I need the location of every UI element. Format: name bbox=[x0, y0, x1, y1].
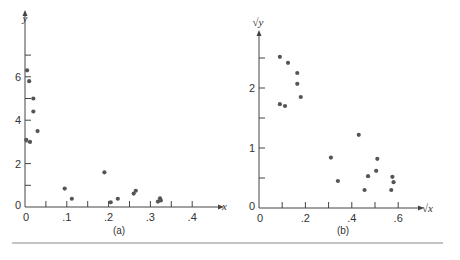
y-axis-label: y bbox=[22, 12, 28, 24]
data-point bbox=[159, 198, 163, 202]
data-point bbox=[70, 197, 74, 201]
data-point bbox=[390, 175, 394, 179]
data-point bbox=[389, 188, 393, 192]
y-tick-label: 6 bbox=[15, 71, 21, 83]
data-point bbox=[25, 68, 29, 72]
y-tick-label: 4 bbox=[15, 114, 21, 126]
data-point bbox=[28, 140, 32, 144]
y-tick-label: 1 bbox=[249, 142, 255, 154]
y-tick-label: 0 bbox=[249, 200, 255, 212]
data-point bbox=[295, 71, 299, 75]
panel-caption: (a) bbox=[113, 225, 125, 236]
data-point bbox=[299, 95, 303, 99]
data-point bbox=[31, 109, 35, 113]
x-tick-label: .4 bbox=[347, 212, 356, 224]
data-point bbox=[375, 157, 379, 161]
data-point bbox=[278, 55, 282, 59]
data-point bbox=[63, 186, 67, 190]
data-point bbox=[357, 133, 361, 137]
data-point bbox=[102, 170, 106, 174]
x-tick-label: .6 bbox=[394, 212, 403, 224]
data-point bbox=[116, 197, 120, 201]
y-tick-label: 0 bbox=[15, 199, 21, 211]
data-point bbox=[336, 179, 340, 183]
data-point bbox=[283, 104, 287, 108]
panel-caption: (b) bbox=[337, 225, 349, 236]
y-axis-label: √y bbox=[253, 16, 264, 28]
x-tick-label: .1 bbox=[62, 211, 71, 223]
data-point bbox=[362, 188, 366, 192]
data-point bbox=[27, 79, 31, 83]
data-point bbox=[278, 102, 282, 106]
scatter-panel-b: 0.2.4.6012√y√x(b) bbox=[249, 16, 433, 236]
x-tick-label: .3 bbox=[146, 211, 155, 223]
data-point bbox=[31, 96, 35, 100]
x-tick-label: .4 bbox=[188, 211, 197, 223]
y-tick-label: 2 bbox=[15, 158, 21, 170]
data-point bbox=[24, 138, 28, 142]
data-point bbox=[329, 156, 333, 160]
data-point bbox=[366, 174, 370, 178]
data-point bbox=[109, 200, 113, 204]
scatter-panel-a: 0.1.2.3.40246yx(a) bbox=[15, 10, 227, 236]
data-point bbox=[391, 180, 395, 184]
data-point bbox=[295, 82, 299, 86]
x-tick-label: .2 bbox=[104, 211, 113, 223]
y-axis-arrow-icon bbox=[257, 30, 262, 36]
x-tick-label: .2 bbox=[301, 212, 310, 224]
data-point bbox=[35, 129, 39, 133]
data-point bbox=[286, 61, 290, 65]
x-tick-label: 0 bbox=[23, 211, 29, 223]
y-tick-label: 2 bbox=[249, 82, 255, 94]
data-point bbox=[374, 169, 378, 173]
data-point bbox=[134, 189, 138, 193]
x-axis-label: x bbox=[221, 200, 227, 212]
x-tick-label: 0 bbox=[257, 212, 263, 224]
x-axis-label: √x bbox=[422, 202, 433, 214]
figure-canvas: 0.1.2.3.40246yx(a)0.2.4.6012√y√x(b) bbox=[0, 0, 460, 260]
